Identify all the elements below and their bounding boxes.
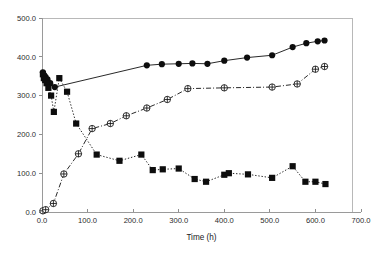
x-tick-label: 100.0 <box>78 216 97 225</box>
series-line-open-circle-plus-series <box>43 67 325 211</box>
data-point-square <box>160 166 166 172</box>
data-point-square <box>73 120 79 126</box>
x-axis-ticks: 0.0100.0200.0300.0400.0500.0600.0700.0 <box>37 209 371 226</box>
data-point-circle-plus <box>321 63 327 69</box>
data-point-square <box>116 158 122 164</box>
data-point-circle-plus <box>123 113 129 119</box>
x-tick-label: 0.0 <box>37 216 48 225</box>
data-point-circle-plus <box>221 85 227 91</box>
data-point-circle <box>321 37 327 43</box>
x-tick-label: 400.0 <box>215 216 234 225</box>
chart-figure: 0.0100.0200.0300.0400.0500.0 0.0100.0200… <box>0 0 389 255</box>
data-point-circle <box>52 84 58 90</box>
x-tick-label: 300.0 <box>169 216 188 225</box>
data-point-circle <box>189 60 195 66</box>
data-point-square <box>322 181 328 187</box>
data-point-circle <box>244 54 250 60</box>
data-point-square <box>302 179 308 185</box>
data-point-circle <box>303 40 309 46</box>
data-point-square <box>138 151 144 157</box>
data-point-circle <box>290 44 296 50</box>
data-point-square <box>48 93 54 99</box>
y-tick-label: 300.0 <box>17 91 36 100</box>
data-point-square <box>45 85 51 91</box>
data-point-circle-plus <box>42 206 48 212</box>
data-point-square <box>245 171 251 177</box>
y-tick-label: 0.0 <box>25 208 36 217</box>
series-lines-group <box>43 41 326 211</box>
data-point-circle <box>144 62 150 68</box>
data-point-square <box>269 175 275 181</box>
y-tick-label: 500.0 <box>17 14 36 23</box>
x-tick-label: 500.0 <box>260 216 279 225</box>
x-axis-label: Time (h) <box>186 233 216 242</box>
data-point-circle-plus <box>89 125 95 131</box>
data-point-circle-plus <box>61 171 67 177</box>
data-point-square <box>192 176 198 182</box>
data-point-square <box>203 179 209 185</box>
x-tick-label: 700.0 <box>351 216 370 225</box>
data-point-square <box>64 89 70 95</box>
data-point-circle-plus <box>75 151 81 157</box>
data-point-circle-plus <box>107 120 113 126</box>
series-line-filled-circle-series <box>43 41 325 88</box>
data-point-circle-plus <box>185 85 191 91</box>
y-tick-label: 100.0 <box>17 169 36 178</box>
data-point-circle <box>159 61 165 67</box>
data-point-circle <box>204 61 210 67</box>
data-point-square <box>51 109 57 115</box>
data-point-circle-plus <box>50 200 56 206</box>
data-point-square <box>226 170 232 176</box>
data-point-circle <box>269 52 275 58</box>
data-point-circle <box>176 61 182 67</box>
data-point-circle-plus <box>294 81 300 87</box>
x-tick-label: 600.0 <box>306 216 325 225</box>
data-point-square <box>94 151 100 157</box>
data-point-square <box>176 165 182 171</box>
data-point-circle-plus <box>164 96 170 102</box>
x-tick-label: 200.0 <box>124 216 143 225</box>
chart-plot-area: 0.0100.0200.0300.0400.0500.0 0.0100.0200… <box>0 0 389 255</box>
y-tick-label: 200.0 <box>17 130 36 139</box>
data-point-square <box>56 75 62 81</box>
data-point-square <box>150 167 156 173</box>
data-point-circle-plus <box>144 105 150 111</box>
data-point-circle-plus <box>269 84 275 90</box>
data-point-square <box>312 179 318 185</box>
data-point-square <box>290 163 296 169</box>
data-point-circle <box>315 38 321 44</box>
data-point-circle <box>221 58 227 64</box>
data-point-circle-plus <box>312 66 318 72</box>
y-tick-label: 400.0 <box>17 53 36 62</box>
y-axis-ticks: 0.0100.0200.0300.0400.0500.0 <box>17 14 42 217</box>
